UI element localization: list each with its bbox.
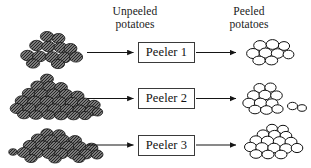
row-1-peeled-pile-icon bbox=[247, 40, 294, 65]
row-3-unpeeled-pile-icon bbox=[17, 129, 103, 163]
peeler-2-box[interactable]: Peeler 2 bbox=[138, 88, 195, 109]
row-1-unpeeled-pile-icon bbox=[21, 32, 83, 69]
peeled-potatoes-header: Peeled potatoes bbox=[200, 5, 298, 30]
diagram-canvas: Unpeeled potatoes Peeled potatoes bbox=[0, 0, 311, 168]
unpeeled-potatoes-header: Unpeeled potatoes bbox=[86, 5, 184, 30]
row-3-peeled-pile-icon bbox=[245, 124, 303, 159]
row-2-unpeeled-pile-icon bbox=[10, 74, 103, 120]
row-2-peeled-pile-icon bbox=[243, 83, 283, 114]
row-3-unpeeled-stray-icon bbox=[9, 149, 17, 155]
peeler-3-box[interactable]: Peeler 3 bbox=[138, 135, 195, 156]
row-2-peeled-stray-icon bbox=[288, 102, 307, 111]
peeler-1-box[interactable]: Peeler 1 bbox=[138, 42, 195, 63]
